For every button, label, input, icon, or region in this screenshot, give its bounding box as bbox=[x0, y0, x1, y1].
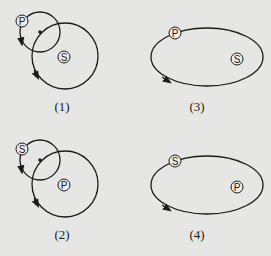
focus-body-marker: P bbox=[231, 181, 243, 193]
arrow-icon bbox=[21, 164, 22, 170]
svg-text:P: P bbox=[19, 16, 26, 27]
panel-1: P S bbox=[16, 12, 98, 89]
panel-4-caption: (4) bbox=[177, 228, 217, 242]
arrow-icon bbox=[21, 36, 22, 42]
orbiting-body-marker: P bbox=[169, 27, 181, 39]
svg-text:P: P bbox=[172, 28, 179, 39]
svg-text:S: S bbox=[61, 52, 68, 63]
panel-3: P S bbox=[151, 27, 263, 86]
elliptical-orbit bbox=[151, 28, 263, 86]
svg-text:P: P bbox=[61, 180, 68, 191]
svg-text:S: S bbox=[19, 144, 26, 155]
small-body-marker: S bbox=[16, 143, 28, 155]
panel-3-caption: (3) bbox=[177, 100, 217, 114]
large-body-marker: P bbox=[58, 179, 70, 191]
center-dot bbox=[38, 30, 42, 34]
panel-4: S P bbox=[151, 155, 263, 214]
focus-body-marker: S bbox=[231, 53, 243, 65]
svg-text:S: S bbox=[234, 54, 241, 65]
small-body-marker: P bbox=[16, 15, 28, 27]
center-dot bbox=[38, 158, 42, 162]
elliptical-orbit bbox=[151, 156, 263, 214]
panel-2-caption: (2) bbox=[42, 228, 82, 242]
panel-1-caption: (1) bbox=[42, 100, 82, 114]
orbiting-body-marker: S bbox=[169, 155, 181, 167]
large-body-marker: S bbox=[58, 51, 70, 63]
svg-text:P: P bbox=[234, 182, 241, 193]
svg-text:S: S bbox=[172, 156, 179, 167]
panel-2: S P bbox=[16, 140, 98, 217]
diagram-svg: P S S P bbox=[0, 0, 271, 256]
orbit-diagram: P S S P bbox=[0, 0, 271, 256]
